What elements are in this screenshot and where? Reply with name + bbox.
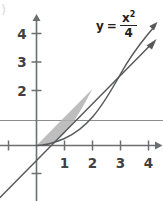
equation-lhs: y xyxy=(96,20,104,32)
x-axis-arrow-icon xyxy=(155,142,163,150)
equation-numerator: x2 xyxy=(120,12,137,25)
equation-fraction: x2 4 xyxy=(120,12,137,39)
y-axis-arrow-icon xyxy=(33,14,41,21)
equation-annotation: y = x2 4 xyxy=(96,12,137,39)
equation-numerator-base: x xyxy=(122,11,130,25)
corner-mark: ) xyxy=(1,2,6,17)
x-axis-label-3: 3 xyxy=(116,155,125,171)
parabola-arrow-icon xyxy=(149,22,157,31)
shaded-area-between-curves xyxy=(37,89,93,146)
y-axis-label-4: 4 xyxy=(17,26,26,42)
equation-denominator: 4 xyxy=(122,26,134,39)
x-axis-label-2: 2 xyxy=(88,155,97,171)
equation-numerator-exponent: 2 xyxy=(130,10,136,19)
plot-canvas: ) 1 2 3 4 4 3 2 xyxy=(0,0,163,201)
graph-figure: ) 1 2 3 4 4 3 2 xyxy=(0,0,163,201)
y-axis-label-2: 2 xyxy=(17,83,26,99)
equation-equals: = xyxy=(107,20,117,32)
x-axis-label-1: 1 xyxy=(60,155,69,171)
y-axis-label-3: 3 xyxy=(17,54,26,70)
x-axis-label-4: 4 xyxy=(144,155,153,171)
